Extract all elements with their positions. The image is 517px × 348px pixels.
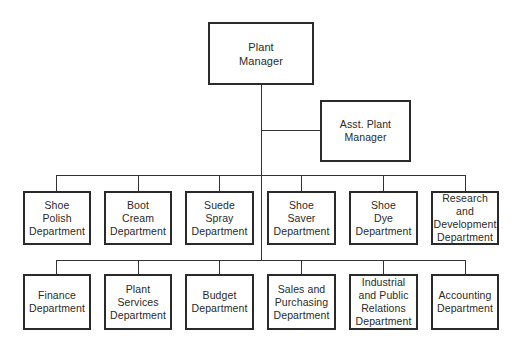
row2-drop-line — [56, 260, 57, 274]
plant-services-department-box: Plant Services Department — [104, 274, 172, 330]
department-label: Suede Spray Department — [192, 199, 248, 238]
row1-drop-line — [219, 175, 220, 191]
department-label: Accounting Department — [437, 289, 493, 315]
asst-plant-manager-box: Asst. Plant Manager — [320, 100, 411, 162]
row1-drop-line — [383, 175, 384, 191]
boot-cream-department-box: Boot Cream Department — [104, 191, 172, 245]
department-label: Finance Department — [29, 289, 85, 315]
department-label: Shoe Dye Department — [356, 199, 412, 238]
row1-drop-line — [301, 175, 302, 191]
row2-drop-line — [383, 260, 384, 274]
row1-drop-line — [56, 175, 57, 191]
department-label: Boot Cream Department — [110, 199, 166, 238]
accounting-department-box: Accounting Department — [431, 274, 499, 330]
department-label: Sales and Purchasing Department — [274, 283, 330, 322]
shoe-polish-department-box: Shoe Polish Department — [23, 191, 91, 245]
suede-spray-department-box: Suede Spray Department — [185, 191, 254, 245]
plant-manager-label: Plant Manager — [239, 40, 283, 68]
research-development-department-box: Research and Development Department — [431, 191, 499, 245]
row1-drop-line — [465, 175, 466, 191]
shoe-saver-department-box: Shoe Saver Department — [267, 191, 336, 245]
department-label: Shoe Saver Department — [274, 199, 330, 238]
department-label: Research and Development Department — [433, 192, 497, 244]
row1-bus-line — [56, 175, 466, 176]
row2-drop-line — [219, 260, 220, 274]
industrial-public-relations-department-box: Industrial and Public Relations Departme… — [349, 274, 418, 330]
department-label: Budget Department — [192, 289, 248, 315]
row1-drop-line — [138, 175, 139, 191]
main-trunk-line — [261, 84, 262, 261]
asst-plant-manager-label: Asst. Plant Manager — [340, 118, 391, 144]
budget-department-box: Budget Department — [185, 274, 254, 330]
sales-purchasing-department-box: Sales and Purchasing Department — [267, 274, 336, 330]
department-label: Industrial and Public Relations Departme… — [356, 276, 412, 328]
row2-drop-line — [465, 260, 466, 274]
department-label: Shoe Polish Department — [29, 199, 85, 238]
row2-drop-line — [138, 260, 139, 274]
row2-bus-line — [56, 260, 466, 261]
shoe-dye-department-box: Shoe Dye Department — [349, 191, 418, 245]
row2-drop-line — [301, 260, 302, 274]
finance-department-box: Finance Department — [23, 274, 91, 330]
department-label: Plant Services Department — [110, 283, 166, 322]
plant-manager-box: Plant Manager — [208, 22, 314, 85]
assistant-connector-line — [261, 130, 320, 131]
